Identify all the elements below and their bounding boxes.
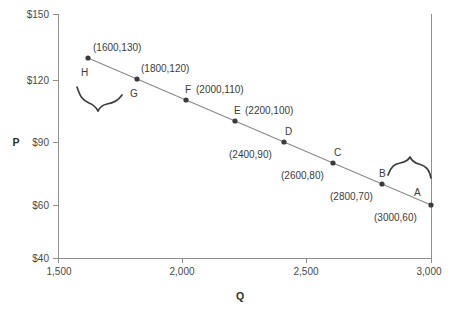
point-label-D: D xyxy=(285,126,292,137)
x-tick-label-3000: 3,000 xyxy=(416,266,441,277)
x-tick-label-2000: 2,000 xyxy=(169,266,194,277)
data-point-C xyxy=(330,160,335,165)
point-label-C: C xyxy=(334,147,341,158)
x-tick-label-2500: 2,500 xyxy=(293,266,318,277)
page-text-sliver xyxy=(0,308,453,313)
data-point-D xyxy=(281,139,286,144)
brace-right-icon xyxy=(388,157,431,178)
x-axis-title: Q xyxy=(236,290,244,302)
point-label-F: F xyxy=(185,84,191,95)
data-point-G xyxy=(134,76,139,81)
coord-label-D: (2400,90) xyxy=(229,149,272,160)
y-tick-label-150: $150 xyxy=(27,9,50,20)
brace-left-icon xyxy=(77,87,122,111)
y-tick-label-90: $90 xyxy=(32,137,49,148)
point-label-A: A xyxy=(414,187,421,198)
coord-label-F: (2000,110) xyxy=(196,84,244,95)
y-tick-label-60: $60 xyxy=(32,200,49,211)
coord-label-H: (1600,130) xyxy=(93,42,141,53)
data-point-F xyxy=(183,97,188,102)
x-tick-label-1500: 1,500 xyxy=(46,266,71,277)
data-point-B xyxy=(379,181,384,186)
data-point-H xyxy=(85,55,90,60)
data-point-E xyxy=(232,118,237,123)
coord-label-A: (3000,60) xyxy=(374,212,417,223)
coord-label-B: (2800,70) xyxy=(330,191,373,202)
data-point-A xyxy=(428,202,433,207)
point-label-G: G xyxy=(130,88,138,99)
coord-label-G: (1800,120) xyxy=(141,63,189,74)
point-label-H: H xyxy=(81,67,88,78)
point-label-B: B xyxy=(379,168,386,179)
coord-label-E: (2200,100) xyxy=(245,105,293,116)
point-label-E: E xyxy=(234,105,241,116)
coord-label-C: (2600,80) xyxy=(281,170,324,181)
chart-canvas: $150 $120 $90 $60 $40 1,500 2,000 2,500 … xyxy=(0,0,453,313)
demand-curve-line xyxy=(88,58,431,205)
demand-curve-chart: $150 $120 $90 $60 $40 1,500 2,000 2,500 … xyxy=(0,0,453,313)
y-axis-title: P xyxy=(12,136,19,148)
y-tick-label-40: $40 xyxy=(32,253,49,264)
y-tick-label-120: $120 xyxy=(27,75,50,86)
